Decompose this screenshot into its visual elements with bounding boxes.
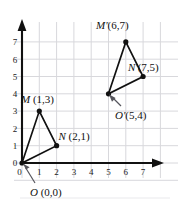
label-m: M (1,3) — [20, 93, 54, 106]
y-tick-3: 3 — [13, 106, 18, 116]
label-n-coords: (2,1) — [66, 130, 90, 143]
x-axis-tick-labels: 0 1 2 3 4 5 6 7 — [17, 167, 146, 177]
coordinate-plane-figure: 0 1 2 3 4 5 6 7 0 1 2 3 4 5 6 7 — [0, 0, 186, 203]
y-tick-6: 6 — [13, 55, 18, 65]
vertex-m-dot — [37, 109, 42, 114]
y-tick-4: 4 — [13, 89, 18, 99]
label-n: N (2,1) — [58, 130, 91, 143]
vertex-n-dot — [54, 143, 59, 148]
x-tick-5: 5 — [106, 167, 111, 177]
x-tick-6: 6 — [124, 167, 129, 177]
x-tick-7: 7 — [141, 167, 146, 177]
x-axis-arrowhead — [152, 159, 164, 168]
label-o-prime-coords: (5,4) — [125, 109, 146, 122]
x-tick-1: 1 — [37, 167, 42, 177]
leader-arrow-o-head — [23, 163, 30, 169]
leader-arrow-o-prime-head — [109, 94, 116, 102]
vertex-m-prime-dot — [123, 39, 128, 44]
label-o-name: O — [30, 186, 38, 198]
label-o-prime-name: O' — [115, 109, 126, 121]
label-m-coords: (1,3) — [30, 93, 54, 106]
label-o-coords: (0,0) — [38, 186, 62, 199]
x-tick-3: 3 — [72, 167, 77, 177]
label-m-prime-name: M' — [95, 19, 108, 31]
y-tick-5: 5 — [13, 72, 18, 82]
label-m-prime: M'(6,7) — [95, 19, 129, 32]
y-axis-tick-labels: 0 1 2 3 4 5 6 7 — [13, 37, 18, 168]
plot-area: 0 1 2 3 4 5 6 7 0 1 2 3 4 5 6 7 — [0, 0, 186, 203]
label-n-prime-coords: (7,5) — [138, 61, 159, 74]
label-n-prime: N'(7,5) — [127, 61, 159, 74]
label-n-prime-name: N' — [127, 61, 138, 73]
label-o-prime: O'(5,4) — [115, 109, 147, 122]
y-tick-2: 2 — [13, 124, 18, 134]
label-o: O (0,0) — [30, 186, 62, 199]
y-tick-7: 7 — [13, 37, 18, 47]
y-tick-1: 1 — [13, 141, 18, 151]
vertex-n-prime-dot — [141, 74, 146, 79]
x-tick-4: 4 — [89, 167, 94, 177]
y-axis-arrowhead — [18, 19, 27, 31]
y-axis — [18, 19, 27, 163]
x-tick-0: 0 — [17, 167, 22, 177]
leader-arrow-o-prime — [109, 94, 121, 106]
x-tick-2: 2 — [54, 167, 59, 177]
label-m-prime-coords: (6,7) — [108, 19, 129, 32]
